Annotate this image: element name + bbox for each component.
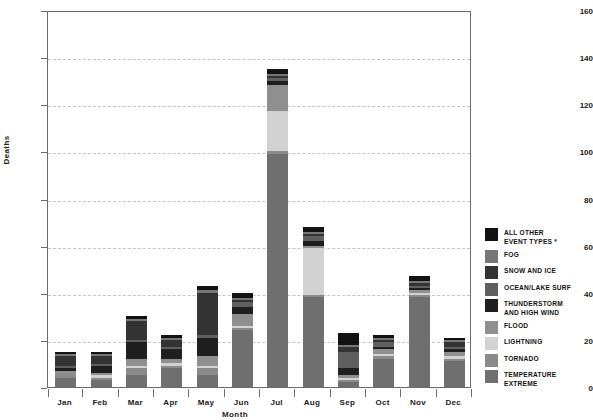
legend-item[interactable]: TORNADO <box>485 354 591 367</box>
gridline <box>48 153 470 154</box>
bar-aug[interactable] <box>303 227 324 387</box>
bar-segment <box>373 359 394 387</box>
bar-jun[interactable] <box>232 293 253 387</box>
bar-segment <box>126 368 147 375</box>
x-tick-label-dec: Dec <box>433 398 473 407</box>
x-tick-label-may: May <box>186 398 226 407</box>
x-tick-label-jan: Jan <box>45 398 85 407</box>
bar-segment <box>338 333 359 345</box>
x-tick-mark <box>471 389 472 397</box>
legend-item[interactable]: FOG <box>485 250 591 263</box>
bar-segment <box>91 356 112 363</box>
x-axis-label: Month <box>0 410 470 419</box>
y-tick-label: 120 <box>553 101 593 110</box>
x-tick-mark <box>224 389 225 397</box>
x-tick-mark <box>259 389 260 397</box>
x-tick-label-feb: Feb <box>80 398 120 407</box>
y-axis-label: Deaths <box>2 110 11 190</box>
bar-nov[interactable] <box>409 276 430 387</box>
x-tick-label-jun: Jun <box>221 398 261 407</box>
legend-swatch-icon <box>485 283 498 296</box>
bar-segment <box>338 368 359 375</box>
bar-segment <box>303 297 324 387</box>
bar-apr[interactable] <box>161 335 182 387</box>
legend-label: THUNDERSTORM AND HIGH WIND <box>504 299 563 317</box>
gridline <box>48 248 470 249</box>
y-tick-label: 80 <box>553 195 593 204</box>
y-tick-label: 140 <box>553 54 593 63</box>
bar-segment <box>126 359 147 366</box>
legend-item[interactable]: FLOOD <box>485 321 591 334</box>
bar-segment <box>197 338 218 357</box>
legend-item[interactable]: SNOW AND ICE <box>485 266 591 279</box>
y-tick-label: 100 <box>553 148 593 157</box>
bar-segment <box>197 375 218 387</box>
x-tick-label-aug: Aug <box>292 398 332 407</box>
bar-segment <box>197 356 218 365</box>
legend-swatch-icon <box>485 250 498 263</box>
legend-swatch-icon <box>485 321 498 334</box>
legend-swatch-icon <box>485 228 498 241</box>
x-tick-label-sep: Sep <box>327 398 367 407</box>
legend: ALL OTHER EVENT TYPES *FOGSNOW AND ICEOC… <box>485 228 591 392</box>
bar-segment <box>126 375 147 387</box>
legend-label: SNOW AND ICE <box>504 266 556 276</box>
legend-label: LIGHTNING <box>504 337 543 347</box>
bar-segment <box>161 340 182 347</box>
bar-segment <box>444 361 465 387</box>
x-tick-label-nov: Nov <box>398 398 438 407</box>
x-tick-mark <box>436 389 437 397</box>
legend-item[interactable]: THUNDERSTORM AND HIGH WIND <box>485 299 591 317</box>
legend-label: FOG <box>504 250 519 260</box>
legend-swatch-icon <box>485 354 498 367</box>
bar-segment <box>409 297 430 387</box>
gridline <box>48 59 470 60</box>
bar-segment <box>55 378 76 387</box>
bar-dec[interactable] <box>444 338 465 387</box>
bar-segment <box>267 85 288 111</box>
bar-segment <box>126 321 147 340</box>
bar-segment <box>232 314 253 326</box>
legend-label: ALL OTHER EVENT TYPES * <box>504 228 557 246</box>
bar-segment <box>91 366 112 373</box>
bar-sep[interactable] <box>338 333 359 387</box>
gridline <box>48 201 470 202</box>
legend-item[interactable]: TEMPERATURE EXTREME <box>485 370 591 388</box>
gridline <box>48 106 470 107</box>
stacked-bar-chart: Deaths Month 020406080100120140160 JanFe… <box>0 0 593 420</box>
legend-label: OCEAN/LAKE SURF <box>504 283 571 293</box>
bar-feb[interactable] <box>91 352 112 387</box>
x-tick-mark <box>153 389 154 397</box>
x-tick-mark <box>294 389 295 397</box>
legend-swatch-icon <box>485 370 498 383</box>
x-tick-mark <box>48 389 49 397</box>
bar-oct[interactable] <box>373 335 394 387</box>
legend-item[interactable]: LIGHTNING <box>485 337 591 350</box>
bar-segment <box>267 154 288 387</box>
x-tick-label-apr: Apr <box>151 398 191 407</box>
x-tick-label-jul: Jul <box>257 398 297 407</box>
legend-label: FLOOD <box>504 321 528 331</box>
legend-item[interactable]: OCEAN/LAKE SURF <box>485 283 591 296</box>
x-tick-mark <box>188 389 189 397</box>
bar-segment <box>338 382 359 387</box>
legend-label: TORNADO <box>504 354 539 364</box>
bar-mar[interactable] <box>126 316 147 387</box>
bar-jul[interactable] <box>267 69 288 387</box>
legend-swatch-icon <box>485 299 498 312</box>
bar-segment <box>338 352 359 368</box>
bar-segment <box>232 330 253 387</box>
bar-may[interactable] <box>197 286 218 387</box>
legend-swatch-icon <box>485 266 498 279</box>
bar-jan[interactable] <box>55 352 76 387</box>
x-tick-mark <box>82 389 83 397</box>
x-tick-mark <box>330 389 331 397</box>
x-tick-mark <box>118 389 119 397</box>
y-tick-mark <box>41 388 47 389</box>
bar-segment <box>267 111 288 151</box>
x-tick-label-oct: Oct <box>363 398 403 407</box>
bar-segment <box>161 368 182 387</box>
legend-item[interactable]: ALL OTHER EVENT TYPES * <box>485 228 591 246</box>
x-tick-label-mar: Mar <box>115 398 155 407</box>
bar-segment <box>197 293 218 335</box>
